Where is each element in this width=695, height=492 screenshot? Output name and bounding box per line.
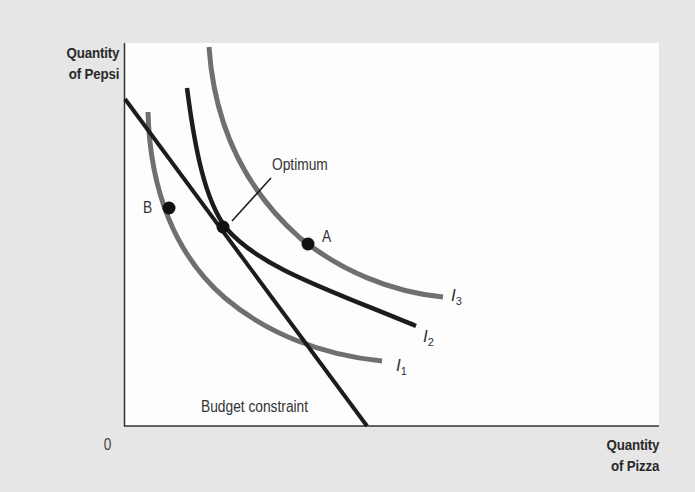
point-a bbox=[302, 238, 315, 251]
x-axis-label-line1: Quantity bbox=[606, 434, 659, 455]
point-b bbox=[163, 202, 176, 215]
point-a-label: A bbox=[322, 228, 331, 246]
consumer-optimum-diagram: Quantity of Pepsi Quantity of Pizza 0 Op… bbox=[0, 0, 695, 492]
budget-constraint-line bbox=[125, 99, 367, 426]
budget-constraint-label: Budget constraint bbox=[201, 398, 308, 416]
curve-label-i3-sub: 3 bbox=[456, 295, 462, 307]
y-axis-label-line1: Quantity bbox=[66, 42, 119, 63]
curve-label-i3: I3 bbox=[451, 286, 462, 307]
y-axis-label-line2: of Pepsi bbox=[66, 63, 119, 84]
curve-label-i1-sub: 1 bbox=[401, 365, 407, 377]
optimum-label: Optimum bbox=[272, 156, 328, 174]
curve-label-i2: I2 bbox=[423, 327, 434, 348]
origin-label: 0 bbox=[104, 436, 112, 454]
point-b-label: B bbox=[143, 199, 152, 217]
y-axis-label: Quantity of Pepsi bbox=[66, 42, 119, 84]
optimum-point bbox=[217, 221, 230, 234]
x-axis-label-line2: of Pizza bbox=[606, 455, 659, 476]
indifference-curve-i1 bbox=[148, 112, 382, 361]
curve-label-i2-sub: 2 bbox=[428, 336, 434, 348]
curve-label-i1: I1 bbox=[396, 356, 407, 377]
x-axis-label: Quantity of Pizza bbox=[606, 434, 659, 476]
